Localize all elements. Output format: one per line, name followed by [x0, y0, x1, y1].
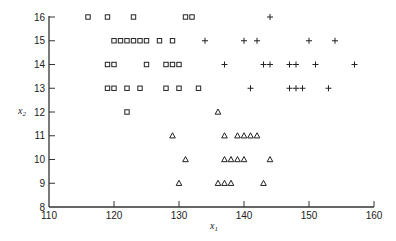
plus-marker — [293, 62, 299, 68]
triangle-marker — [241, 133, 247, 138]
square-marker — [138, 39, 142, 43]
y-tick-label: 12 — [34, 107, 46, 118]
square-marker — [183, 15, 187, 19]
x-axis-title: x1 — [209, 220, 218, 233]
triangle-marker — [254, 133, 260, 138]
square-marker — [144, 39, 148, 43]
plus-marker — [313, 62, 319, 68]
plus-marker — [267, 62, 273, 68]
plus-marker — [241, 38, 247, 44]
square-marker — [170, 62, 174, 66]
triangle-marker — [241, 157, 247, 162]
triangle-marker — [222, 133, 228, 138]
plus-marker — [300, 85, 306, 91]
plus-marker — [306, 38, 312, 44]
plus-marker — [254, 38, 260, 44]
x-tick-label: 140 — [236, 210, 253, 221]
y-tick-label: 15 — [34, 35, 46, 46]
scatter-plot: 1101201301401501608910111213141516 x1 x2 — [0, 0, 396, 241]
triangle-marker — [183, 157, 189, 162]
square-marker — [105, 62, 109, 66]
plus-marker — [248, 85, 254, 91]
square-marker — [170, 39, 174, 43]
triangle-marker — [248, 133, 254, 138]
triangle-marker — [215, 109, 221, 114]
triangle-marker — [228, 180, 234, 185]
square-marker — [164, 62, 168, 66]
y-tick-label: 10 — [34, 154, 46, 165]
triangle-marker — [228, 157, 234, 162]
square-marker — [138, 86, 142, 90]
square-marker — [177, 86, 181, 90]
plus-marker — [202, 38, 208, 44]
x-tick-label: 120 — [106, 210, 123, 221]
plus-marker — [287, 85, 293, 91]
square-marker — [112, 39, 116, 43]
data-points — [86, 14, 358, 185]
square-marker — [125, 39, 129, 43]
square-marker — [112, 62, 116, 66]
plus-marker — [293, 85, 299, 91]
square-marker — [131, 39, 135, 43]
triangle-marker — [170, 133, 176, 138]
x-tick-label: 130 — [171, 210, 188, 221]
square-marker — [125, 86, 129, 90]
axes: 1101201301401501608910111213141516 — [34, 12, 383, 222]
x-tick-label: 150 — [301, 210, 318, 221]
square-marker — [105, 86, 109, 90]
square-marker — [112, 86, 116, 90]
square-marker — [164, 86, 168, 90]
square-marker — [190, 15, 194, 19]
triangle-marker — [176, 180, 182, 185]
y-tick-label: 8 — [39, 202, 45, 213]
plus-marker — [326, 85, 332, 91]
square-marker — [196, 86, 200, 90]
triangle-marker — [235, 133, 241, 138]
triangle-marker — [215, 180, 221, 185]
plus-marker — [261, 62, 267, 68]
plus-marker — [332, 38, 338, 44]
square-marker — [157, 39, 161, 43]
y-tick-label: 14 — [34, 59, 46, 70]
triangle-marker — [222, 180, 228, 185]
square-marker — [125, 110, 129, 114]
y-tick-label: 13 — [34, 83, 46, 94]
square-marker — [144, 62, 148, 66]
plus-marker — [267, 14, 273, 20]
square-marker — [131, 15, 135, 19]
triangle-marker — [267, 157, 273, 162]
triangle-marker — [235, 157, 241, 162]
square-marker — [105, 15, 109, 19]
square-marker — [118, 39, 122, 43]
y-tick-label: 16 — [34, 12, 46, 23]
x-tick-label: 160 — [366, 210, 383, 221]
plus-marker — [287, 62, 293, 68]
y-axis-title: x2 — [17, 105, 26, 118]
plus-marker — [352, 62, 358, 68]
triangle-marker — [261, 180, 267, 185]
triangle-marker — [222, 157, 228, 162]
square-marker — [177, 62, 181, 66]
y-tick-label: 11 — [35, 130, 46, 141]
y-tick-label: 9 — [39, 178, 45, 189]
plus-marker — [222, 62, 228, 68]
square-marker — [86, 15, 90, 19]
